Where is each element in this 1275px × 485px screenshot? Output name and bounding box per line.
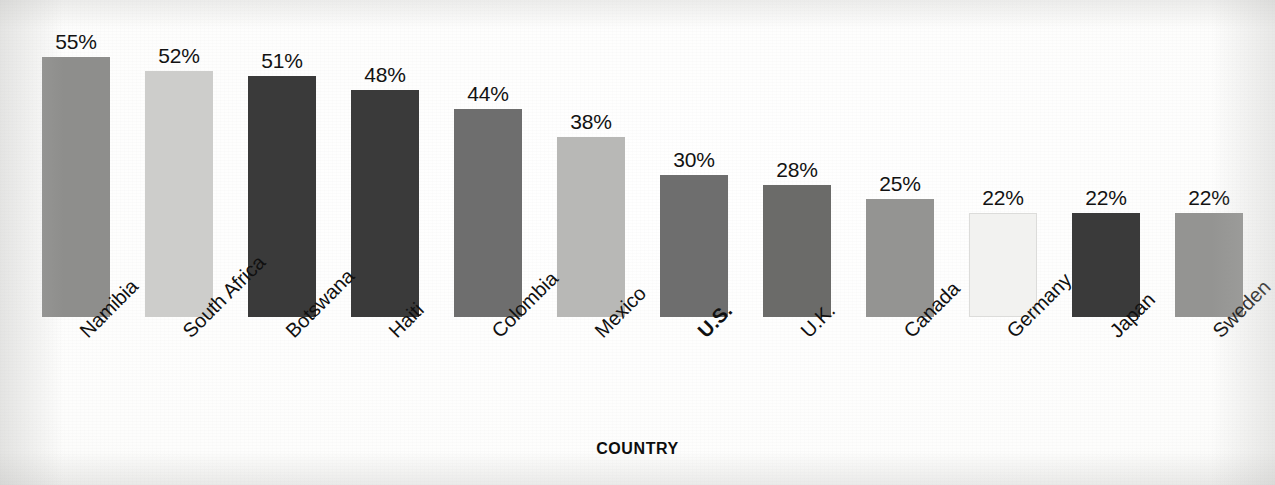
bar-namibia: 55% — [42, 57, 110, 317]
bar-value-label: 22% — [1188, 187, 1229, 208]
bar-rect — [557, 137, 625, 317]
bar-value-label: 51% — [261, 50, 302, 71]
bar-mexico: 38% — [557, 137, 625, 317]
bar-haiti: 48% — [351, 90, 419, 317]
bar-rect — [866, 199, 934, 317]
bar-value-label: 30% — [673, 149, 714, 170]
bar-rect — [763, 185, 831, 317]
bar-south-africa: 52% — [145, 71, 213, 317]
bar-value-label: 25% — [879, 173, 920, 194]
bar-rect — [351, 90, 419, 317]
bar-value-label: 38% — [570, 111, 611, 132]
bar-value-label: 55% — [55, 31, 96, 52]
bar-value-label: 44% — [467, 83, 508, 104]
x-axis-title: COUNTRY — [0, 440, 1275, 458]
bar-value-label: 22% — [982, 187, 1023, 208]
bar-rect — [660, 175, 728, 317]
bar-value-label: 28% — [776, 159, 817, 180]
category-axis-labels: NamibiaSouth AfricaBotswanaHaitiColombia… — [0, 317, 1275, 437]
bar-value-label: 48% — [364, 64, 405, 85]
bar-rect — [145, 71, 213, 317]
plot-area: 55%52%51%48%44%38%30%28%25%22%22%22% — [0, 0, 1275, 317]
bar-colombia: 44% — [454, 109, 522, 317]
bar-u-s: 30% — [660, 175, 728, 317]
bar-rect — [248, 76, 316, 317]
bar-botswana: 51% — [248, 76, 316, 317]
bar-value-label: 22% — [1085, 187, 1126, 208]
bar-chart-figure: 55%52%51%48%44%38%30%28%25%22%22%22% Nam… — [0, 0, 1275, 485]
bar-canada: 25% — [866, 199, 934, 317]
bar-rect — [42, 57, 110, 317]
bar-rect — [454, 109, 522, 317]
bar-u-k: 28% — [763, 185, 831, 317]
bar-value-label: 52% — [158, 45, 199, 66]
